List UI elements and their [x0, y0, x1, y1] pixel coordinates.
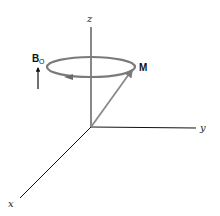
- magnetization-vector: [91, 70, 132, 127]
- y-axis-label: y: [199, 122, 206, 133]
- x-axis: [20, 127, 91, 198]
- x-axis-label: x: [8, 198, 14, 209]
- y-axis: [91, 127, 196, 128]
- magnetization-label: M: [139, 62, 147, 73]
- field-label-subscript: O: [39, 58, 45, 65]
- precession-diagram: z y x M B O: [0, 0, 220, 216]
- z-axis-label: z: [86, 13, 93, 24]
